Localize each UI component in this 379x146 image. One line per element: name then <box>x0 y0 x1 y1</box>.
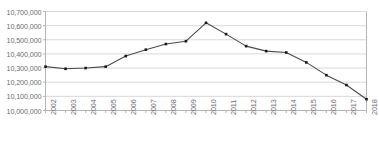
x-axis-tick-label: 2004 <box>89 99 98 115</box>
data-point-marker <box>365 98 368 101</box>
y-axis-tick-label: 10,000,000 <box>0 106 42 115</box>
x-axis-tick-label: 2010 <box>209 99 218 115</box>
data-point-marker <box>145 48 148 51</box>
y-axis-tick-label: 10,500,000 <box>0 35 42 44</box>
x-axis-tick-label: 2017 <box>349 99 358 115</box>
data-point-marker <box>165 43 168 46</box>
x-axis-tick-label: 2005 <box>109 99 118 115</box>
data-point-marker <box>84 67 87 70</box>
y-axis-tick-label: 10,400,000 <box>0 49 42 58</box>
data-point-marker <box>305 61 308 64</box>
x-axis-tick-label: 2011 <box>229 99 238 114</box>
x-axis-tick-label: 2003 <box>69 99 78 115</box>
data-point-marker <box>205 22 208 25</box>
data-point-marker <box>124 55 127 58</box>
x-axis-tick-label: 2018 <box>370 99 379 115</box>
data-point-marker <box>345 84 348 87</box>
data-point-marker <box>245 45 248 48</box>
data-point-marker <box>285 51 288 54</box>
x-axis-tick-label: 2008 <box>169 99 178 115</box>
y-axis-tick-label: 10,300,000 <box>0 64 42 73</box>
data-point-marker <box>64 67 67 70</box>
x-axis-tick-label: 2007 <box>149 99 158 115</box>
x-axis-tick-label: 2015 <box>309 99 318 115</box>
data-point-marker <box>44 65 47 68</box>
data-point-marker <box>325 74 328 77</box>
x-axis-tick-label: 2009 <box>189 99 198 115</box>
data-line-population <box>46 23 367 99</box>
x-axis-tick-label: 2013 <box>269 99 278 115</box>
x-axis-tick-label: 2002 <box>49 99 58 115</box>
data-point-marker <box>185 40 188 43</box>
x-axis-tick-label: 2006 <box>129 99 138 115</box>
y-axis-tick-label: 10,100,000 <box>0 92 42 101</box>
data-point-marker <box>104 65 107 68</box>
data-point-marker <box>225 33 228 36</box>
y-axis-tick-label: 10,700,000 <box>0 7 42 16</box>
data-point-marker <box>265 50 268 53</box>
y-axis-tick-label: 10,200,000 <box>0 78 42 87</box>
x-axis-tick-label: 2016 <box>329 99 338 115</box>
y-axis-tick-label: 10,600,000 <box>0 21 42 30</box>
x-axis-tick-label: 2012 <box>249 99 258 115</box>
x-axis-tick-label: 2014 <box>289 99 298 115</box>
